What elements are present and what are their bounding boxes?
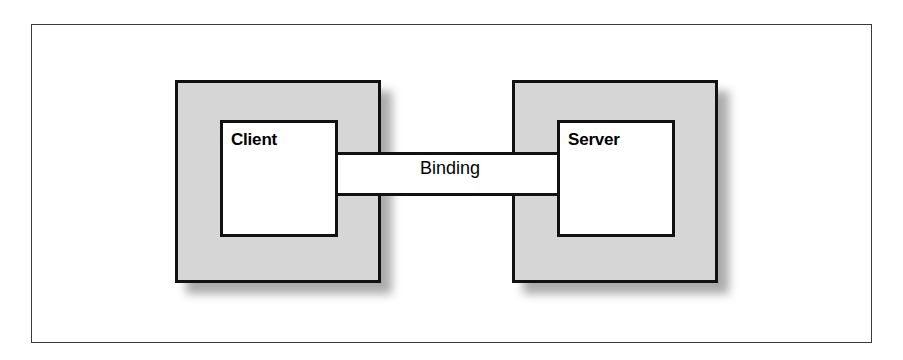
- client-label: Client: [231, 130, 277, 150]
- server-label: Server: [568, 130, 620, 150]
- figure-root: Client Server Binding: [0, 0, 903, 360]
- binding-label: Binding: [330, 158, 570, 179]
- diagram-stage: Client Server Binding: [0, 0, 903, 360]
